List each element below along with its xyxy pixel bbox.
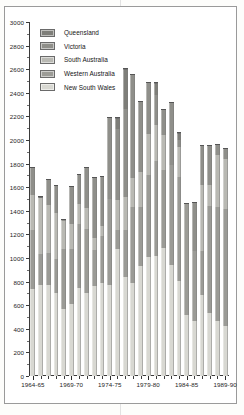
bar-1971-72 — [84, 168, 89, 376]
bar-segment-western-australia — [92, 250, 97, 287]
bar-segment-new-south-wales — [192, 321, 197, 376]
y-tick-label: 2800 — [10, 42, 24, 49]
legend-item-queensland: Queensland — [40, 26, 115, 40]
x-tick — [56, 376, 57, 379]
bar-segment-new-south-wales — [200, 295, 205, 376]
bar-1970-71 — [77, 175, 82, 376]
legend-label: Western Australia — [64, 70, 115, 77]
legend-item-south-australia: South Australia — [40, 53, 115, 67]
bar-1967-68 — [54, 186, 59, 376]
x-tick-label: 1984-85 — [175, 381, 198, 388]
bar-1986-87 — [200, 146, 205, 376]
bar-top-outline — [54, 185, 59, 186]
bar-top-outline — [215, 144, 220, 145]
y-minor-tick — [27, 34, 29, 35]
bar-segment-new-south-wales — [77, 288, 82, 376]
y-tick — [26, 258, 29, 259]
y-tick — [26, 69, 29, 70]
x-tick — [117, 376, 118, 379]
bar-segment-western-australia — [161, 170, 166, 248]
bar-top-outline — [138, 101, 143, 102]
x-tick-label: 1979-80 — [137, 381, 160, 388]
bar-segment-south-australia — [30, 195, 35, 229]
bar-segment-new-south-wales — [146, 257, 151, 376]
bar-segment-south-australia — [215, 155, 220, 207]
legend-swatch — [40, 56, 55, 64]
y-tick-label: 1200 — [10, 231, 24, 238]
y-tick-label: 800 — [13, 278, 24, 285]
x-tick — [171, 376, 172, 379]
bar-segment-victoria — [130, 75, 135, 178]
bar-1987-88 — [207, 146, 212, 376]
bar-segment-new-south-wales — [215, 321, 220, 376]
legend-swatch — [40, 70, 55, 78]
bar-segment-new-south-wales — [223, 326, 228, 376]
bar-1978-79 — [138, 102, 143, 376]
bar-segment-victoria — [146, 83, 151, 133]
bar-segment-victoria — [223, 149, 228, 159]
bar-segment-new-south-wales — [107, 285, 112, 376]
bar-segment-western-australia — [169, 165, 174, 264]
bar-1983-84 — [177, 133, 182, 376]
legend-item-new-south-wales: New South Wales — [40, 80, 115, 94]
bar-top-outline — [77, 174, 82, 175]
bar-segment-western-australia — [200, 251, 205, 295]
x-tick — [64, 376, 65, 379]
bar-segment-queensland — [38, 197, 43, 198]
bar-segment-new-south-wales — [130, 283, 135, 376]
bar-1984-85 — [184, 204, 189, 376]
bar-segment-western-australia — [146, 175, 151, 257]
bar-segment-new-south-wales — [38, 285, 43, 376]
y-minor-tick — [27, 57, 29, 58]
bar-segment-queensland — [123, 69, 128, 109]
y-tick — [26, 116, 29, 117]
bar-segment-western-australia — [177, 177, 182, 281]
bar-top-outline — [107, 117, 112, 118]
y-tick-label: 1000 — [10, 255, 24, 262]
bar-segment-victoria — [107, 118, 112, 199]
y-minor-tick — [27, 105, 29, 106]
legend-swatch — [40, 83, 55, 91]
bar-segment-western-australia — [61, 249, 66, 309]
bar-1968-69 — [61, 220, 66, 376]
bar-segment-new-south-wales — [138, 266, 143, 376]
x-tick — [164, 376, 165, 379]
bar-1988-89 — [215, 145, 220, 376]
bar-top-outline — [69, 186, 74, 187]
y-minor-tick — [27, 223, 29, 224]
bar-top-outline — [200, 145, 205, 146]
legend-swatch — [40, 42, 55, 50]
bar-segment-victoria — [154, 95, 159, 125]
bar-segment-western-australia — [69, 249, 74, 304]
y-tick-label: 2200 — [10, 113, 24, 120]
y-tick-label: 600 — [13, 302, 24, 309]
y-minor-tick — [27, 317, 29, 318]
bar-top-outline — [154, 82, 159, 83]
bar-segment-western-australia — [192, 251, 197, 321]
x-tick-major — [148, 376, 149, 380]
x-tick — [217, 376, 218, 379]
bar-1964-65 — [30, 168, 35, 376]
bar-segment-south-australia — [100, 226, 105, 236]
bar-segment-south-australia — [177, 147, 182, 178]
x-tick-major — [71, 376, 72, 380]
bar-1985-86 — [192, 203, 197, 376]
bar-segment-new-south-wales — [69, 304, 74, 376]
bar-top-outline — [146, 82, 151, 83]
y-tick — [26, 282, 29, 283]
bar-top-outline — [207, 145, 212, 146]
y-tick — [26, 22, 29, 23]
bar-segment-new-south-wales — [84, 293, 89, 376]
y-tick-label: 3000 — [10, 19, 24, 26]
bar-segment-new-south-wales — [207, 313, 212, 376]
bar-segment-western-australia — [184, 204, 189, 315]
bar-segment-western-australia — [207, 206, 212, 313]
bar-segment-victoria — [46, 180, 51, 205]
x-tick-label: 1989-90 — [213, 381, 236, 388]
y-minor-tick — [27, 199, 29, 200]
x-tick-major — [225, 376, 226, 380]
bar-1982-83 — [169, 103, 174, 376]
bar-1965-66 — [38, 197, 43, 376]
bar-segment-new-south-wales — [161, 248, 166, 376]
bar-segment-western-australia — [107, 199, 112, 285]
